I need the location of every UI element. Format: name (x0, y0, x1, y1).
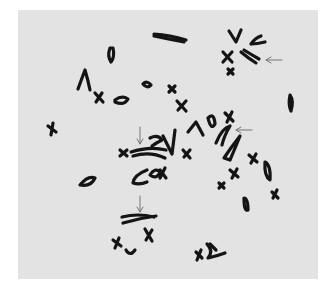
chromosome-spread-figure (0, 0, 334, 289)
chromosome-x-small-top-right (228, 69, 233, 74)
chromosome-oval-right-edge (289, 95, 292, 111)
chromosome-x-lower-mid-right (196, 250, 202, 260)
chromosome-x-small-mid (169, 86, 175, 92)
chromosome-x-small-right-low (219, 183, 224, 188)
chromosome-x-center-left (120, 150, 127, 156)
